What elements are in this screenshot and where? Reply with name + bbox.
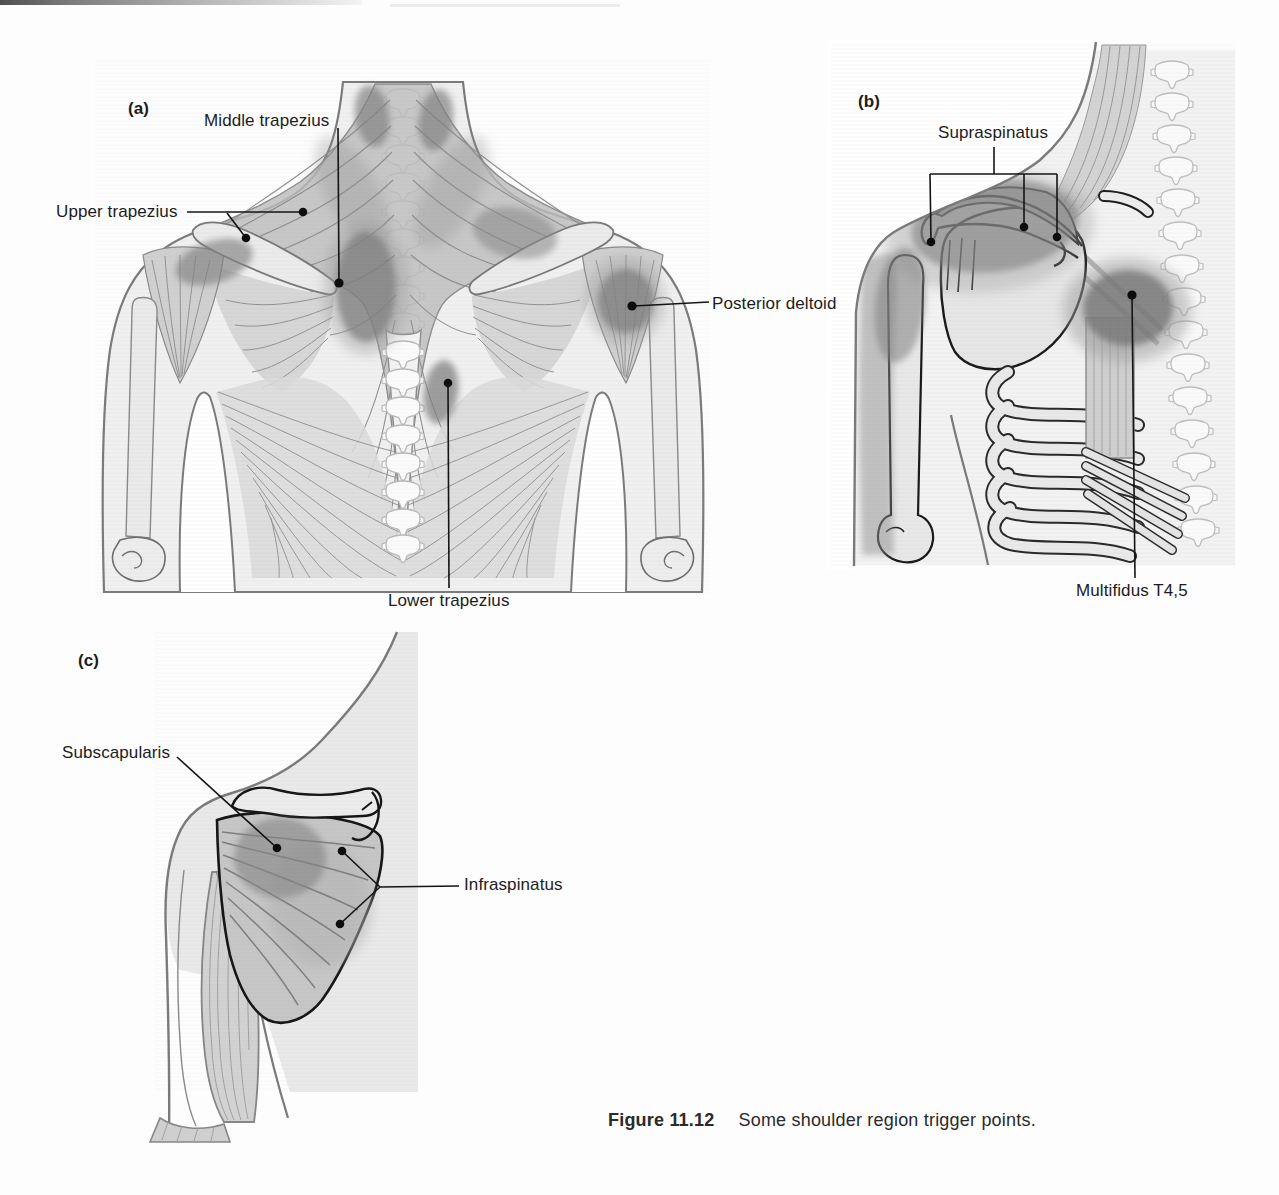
- label-middle-trapezius: Middle trapezius: [204, 112, 329, 130]
- label-subscapularis: Subscapularis: [62, 744, 170, 762]
- figure-number: Figure 11.12: [608, 1110, 714, 1131]
- label-infraspinatus: Infraspinatus: [464, 876, 563, 894]
- book-page: (a) Middle trapezius Upper trapezius Pos…: [0, 0, 1279, 1195]
- label-multifidus: Multifidus T4,5: [1076, 582, 1188, 600]
- panel-c-illustration: [150, 632, 459, 1142]
- panel-a-illustration: [95, 58, 710, 593]
- panel-b-illustration: [826, 40, 1235, 578]
- label-upper-trapezius: Upper trapezius: [56, 203, 178, 221]
- label-supraspinatus: Supraspinatus: [938, 124, 1048, 142]
- panel-letter-c: (c): [78, 652, 99, 670]
- figure-caption-text: Some shoulder region trigger points.: [738, 1110, 1035, 1131]
- figure-caption: Figure 11.12 Some shoulder region trigge…: [608, 1110, 1036, 1131]
- panel-letter-b: (b): [858, 93, 880, 111]
- label-posterior-deltoid: Posterior deltoid: [712, 295, 837, 313]
- label-lower-trapezius: Lower trapezius: [388, 592, 510, 610]
- panel-letter-a: (a): [128, 100, 149, 118]
